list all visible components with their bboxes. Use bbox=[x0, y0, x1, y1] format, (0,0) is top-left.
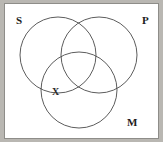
circle-s bbox=[20, 17, 96, 93]
circle-p bbox=[61, 17, 137, 93]
x-mark: X bbox=[52, 87, 59, 97]
set-label-m: M bbox=[127, 117, 137, 128]
set-label-s: S bbox=[16, 15, 22, 26]
figure-inner: S P M X bbox=[5, 4, 158, 138]
set-label-p: P bbox=[142, 15, 149, 26]
venn-diagram-figure: S P M X bbox=[0, 0, 163, 142]
figure-frame: S P M X bbox=[4, 3, 159, 139]
